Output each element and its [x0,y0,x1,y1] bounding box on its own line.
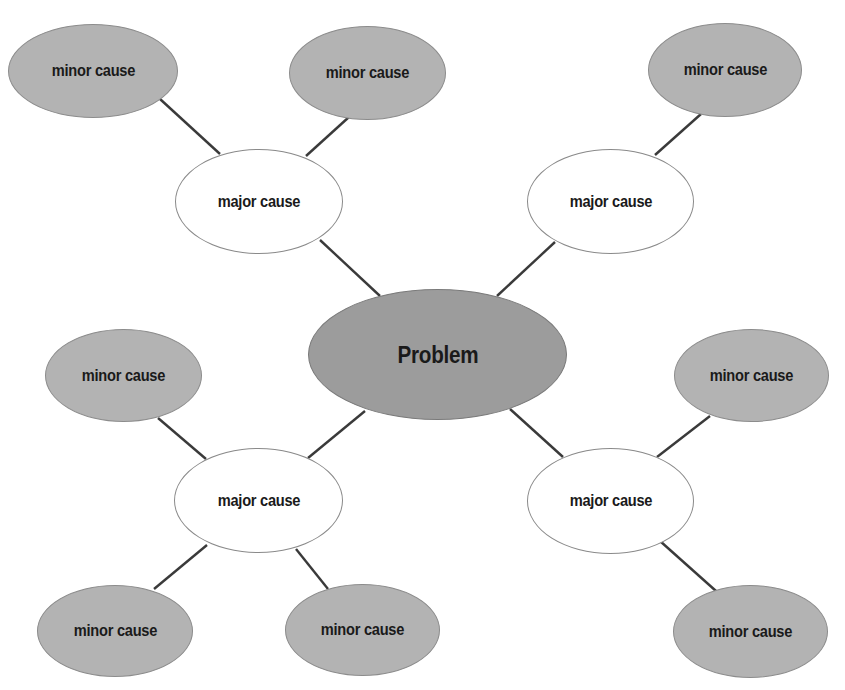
connector-major-tl-minor-2 [306,117,349,156]
minor-cause-label: minor cause [51,61,134,81]
minor-cause-label: minor cause [709,622,792,642]
minor-cause-label: minor cause [683,60,766,80]
major-cause-label: major cause [569,491,651,511]
major-cause-label: major cause [218,192,300,212]
minor-cause-node: minor cause [289,26,446,120]
minor-cause-label: minor cause [321,620,404,640]
connector-problem-major-bl [308,411,365,458]
minor-cause-node: minor cause [673,585,828,678]
major-cause-node: major cause [527,149,694,254]
problem-label: Problem [397,341,478,369]
minor-cause-node: minor cause [45,329,202,422]
connector-major-br-minor-lower [660,541,716,591]
minor-cause-label: minor cause [82,366,165,386]
cause-diagram: minor cause minor cause major cause mino… [0,0,845,690]
major-cause-node: major cause [174,448,343,553]
minor-cause-node: minor cause [285,584,440,676]
minor-cause-node: minor cause [8,24,178,118]
major-cause-label: major cause [217,491,299,511]
connector-major-br-minor-upper [657,416,710,457]
connector-problem-major-br [510,409,563,457]
major-cause-node: major cause [527,448,694,554]
problem-node: Problem [308,289,567,420]
connector-major-bl-minor-lower-1 [154,545,207,589]
minor-cause-label: minor cause [710,366,793,386]
major-cause-node: major cause [175,149,343,254]
connector-major-bl-minor-upper [158,418,206,459]
connector-problem-major-tl [320,240,380,296]
minor-cause-label: minor cause [73,621,156,641]
minor-cause-label: minor cause [326,63,409,83]
minor-cause-node: minor cause [674,329,829,422]
minor-cause-node: minor cause [37,585,193,677]
connector-major-tl-minor-1 [160,99,220,154]
connector-major-tr-minor-1 [655,114,701,155]
connector-major-bl-minor-lower-2 [296,549,328,589]
major-cause-label: major cause [569,192,651,212]
connector-problem-major-tr [497,242,555,296]
minor-cause-node: minor cause [648,23,802,117]
